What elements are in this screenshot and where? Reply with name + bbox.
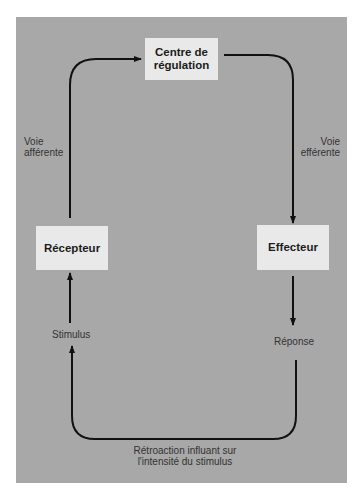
efferent-label: Voie efférente [296,136,340,158]
feedback-loop-arrow [72,346,296,439]
feedback-label: Rétroaction influant sur l'intensité du … [110,445,260,467]
efferent-label-line1: Voie [296,136,340,147]
control-center-label-line2: régulation [154,59,210,72]
receptor-node: Récepteur [36,226,108,270]
receptor-label: Récepteur [44,242,100,255]
afferent-label: Voie afférente [24,136,63,158]
effector-node: Effecteur [257,225,329,270]
afferent-label-line2: afférente [24,147,63,158]
afferent-path-arrow [70,59,141,218]
control-center-node: Centre de régulation [145,38,218,80]
feedback-label-line2: l'intensité du stimulus [110,456,260,467]
afferent-label-line1: Voie [24,136,63,147]
response-label: Réponse [274,336,314,347]
effector-label: Effecteur [268,241,318,254]
efferent-label-line2: efférente [296,147,340,158]
feedback-label-line1: Rétroaction influant sur [110,445,260,456]
stimulus-label: Stimulus [52,329,90,340]
control-center-label-line1: Centre de [155,46,208,59]
efferent-path-arrow [224,55,293,223]
